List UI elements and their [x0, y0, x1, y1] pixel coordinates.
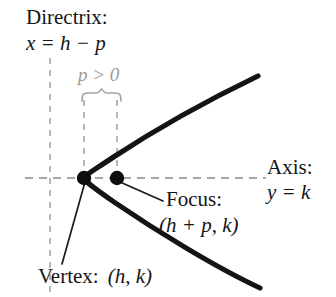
axis-equation: y = k [267, 182, 310, 204]
directrix-equation: x = h − p [26, 33, 106, 55]
vertex-coordinates: (h, k) [108, 264, 152, 288]
parabola-diagram: Directrix: x = h − p p > 0 Axis: y = k F… [0, 0, 336, 297]
axis-label: Axis: [267, 157, 313, 179]
vertex-label-group: Vertex:(h, k) [38, 266, 152, 288]
vertex-point [77, 171, 91, 185]
focus-coordinates: (h + p, k) [159, 215, 238, 237]
focus-leader-line [120, 182, 163, 201]
focus-label: Focus: [166, 189, 222, 211]
vertex-label: Vertex: [38, 264, 99, 288]
vertex-leader-line [62, 182, 85, 264]
focus-point [110, 171, 124, 185]
p-measure-brace [82, 89, 121, 101]
p-condition-label: p > 0 [78, 65, 119, 85]
directrix-label: Directrix: [26, 7, 108, 29]
parabola-curve [84, 76, 260, 288]
